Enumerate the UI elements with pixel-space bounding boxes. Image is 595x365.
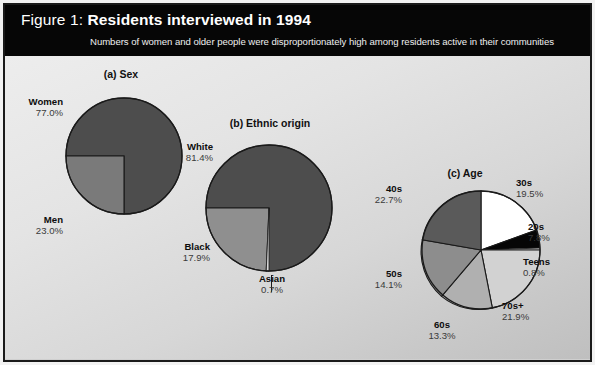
figure-title-text: Residents interviewed in 1994 xyxy=(88,11,311,28)
figure-root: Figure 1: Residents interviewed in 1994 … xyxy=(0,0,595,365)
pie-label-20s: 20s 7.8% xyxy=(528,222,586,243)
pie-chart-age xyxy=(420,189,542,311)
charts-container: (a) Sex Women 77.0% Men 23.0% (b) Ethnic… xyxy=(5,56,590,359)
chart-title-sex: (a) Sex xyxy=(61,68,181,80)
pie-label-men: Men 23.0% xyxy=(5,215,63,236)
pie-label-60s: 60s 13.3% xyxy=(411,320,473,341)
pie-slice-40s xyxy=(422,191,481,250)
pie-chart-ethnic-origin xyxy=(203,142,335,274)
figure-number: Figure 1: xyxy=(21,11,83,28)
pie-label-women: Women 77.0% xyxy=(5,97,63,118)
pie-label-asian: Asian 0.7% xyxy=(241,274,303,295)
chart-title-ethnic-origin: (b) Ethnic origin xyxy=(190,117,350,129)
figure-subtitle: Numbers of women and older people were d… xyxy=(90,36,554,47)
pie-label-40s: 40s 22.7% xyxy=(342,184,402,205)
pie-label-50s: 50s 14.1% xyxy=(342,269,402,290)
pie-slice-black xyxy=(206,208,269,271)
figure-header: Figure 1: Residents interviewed in 1994 … xyxy=(5,5,590,56)
pie-label-70s-plus: 70s+ 21.9% xyxy=(502,301,566,322)
pie-label-30s: 30s 19.5% xyxy=(516,178,578,199)
pie-label-white: White 81.4% xyxy=(141,142,213,163)
page-title: Figure 1: Residents interviewed in 1994 xyxy=(21,11,311,29)
pie-label-teens: Teens 0.8% xyxy=(523,257,587,278)
pie-slice-men xyxy=(66,156,124,214)
pie-label-black: Black 17.9% xyxy=(138,242,210,263)
chart-title-age: (c) Age xyxy=(410,167,520,179)
